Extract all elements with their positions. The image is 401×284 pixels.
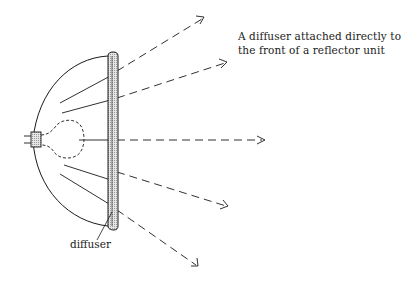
diffuser-label: diffuser (70, 238, 111, 250)
ray-lower (117, 210, 196, 265)
lamp-bulb (41, 120, 84, 158)
diffuser-plate (108, 52, 118, 230)
diagram-caption: A diffuser attached directly to the fron… (238, 29, 401, 57)
reflector (33, 56, 108, 226)
ray-lower-mid (117, 172, 226, 206)
reflected-rays-inner (60, 74, 114, 207)
ray-upper-mid (117, 63, 225, 98)
ray-upper (117, 19, 202, 71)
lamp-base (24, 132, 41, 147)
caption-line-2: the front of a reflector unit (238, 43, 401, 57)
caption-line-1: A diffuser attached directly to (238, 29, 401, 43)
